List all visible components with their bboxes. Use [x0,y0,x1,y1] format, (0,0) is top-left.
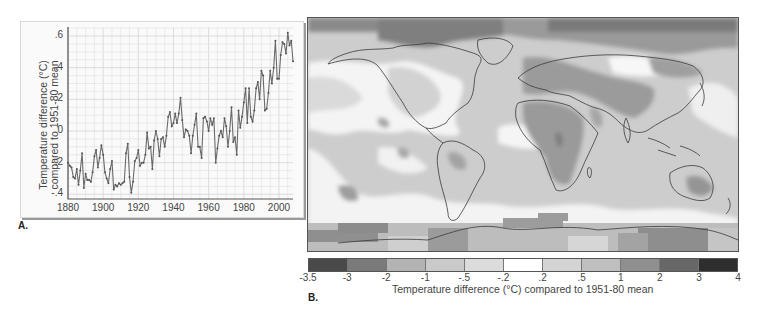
y-tick-label: -.2 [39,156,63,167]
line-chart-plot [21,22,303,217]
colorbar-segment [465,259,504,271]
colorbar-tick-label: -.5 [449,272,479,283]
colorbar-tick-label: 1 [606,272,636,283]
y-tick-label: .4 [39,61,63,72]
colorbar-tick-label: -3.5 [293,272,323,283]
colorbar-caption: Temperature difference (°C) compared to … [392,283,653,295]
colorbar-segment [387,259,426,271]
colorbar-tick-label: .2 [528,272,558,283]
colorbar-segment [543,259,582,271]
x-tick-label: 1940 [158,202,188,213]
x-tick-label: 1880 [53,202,83,213]
panel-a-label: A. [18,220,28,231]
x-tick-label: 1900 [88,202,118,213]
world-map [308,18,738,251]
colorbar-tick-label: -2 [371,272,401,283]
colorbar-tick-label: 3 [684,272,714,283]
temperature-anomaly-map [307,17,739,252]
y-tick-label: .2 [39,92,63,103]
panel-b-label: B. [308,292,318,303]
colorbar-segment [504,259,543,271]
y-tick-label: 0 [39,124,63,135]
colorbar-segment [621,259,660,271]
x-tick-label: 1960 [194,202,224,213]
colorbar-tick-label: -.2 [488,272,518,283]
colorbar-segment [699,259,737,271]
colorbar-segment [582,259,621,271]
colorbar-tick-label: .5 [567,272,597,283]
colorbar-tick-label: -1 [410,272,440,283]
x-tick-label: 1920 [123,202,153,213]
colorbar-segment [426,259,465,271]
panel-a-line-chart: Temperature difference (°C) compared to … [20,21,304,218]
colorbar-segment [660,259,699,271]
colorbar-tick-label: 4 [723,272,753,283]
x-tick-label: 1980 [229,202,259,213]
colorbar-tick-label: 2 [645,272,675,283]
colorbar [308,258,738,272]
temperature-line [68,33,293,193]
y-tick-label: -.4 [39,187,63,198]
x-tick-label: 2000 [264,202,294,213]
colorbar-segment [309,259,348,271]
y-tick-label: .6 [39,29,63,40]
colorbar-tick-label: -3 [332,272,362,283]
colorbar-segment [348,259,387,271]
